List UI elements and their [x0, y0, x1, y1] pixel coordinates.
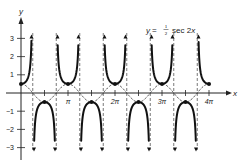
sec-graph: π2π3π4π321−1−2−3yxy=12sec 2x	[0, 0, 239, 163]
marked-point	[113, 82, 117, 86]
y-tick-label: 3	[10, 35, 14, 42]
marked-point	[160, 82, 164, 86]
y-tick-label: −1	[6, 108, 14, 115]
marked-point	[90, 100, 94, 104]
y-tick-label: −3	[6, 144, 14, 151]
secant-branch	[175, 102, 196, 141]
marked-point	[19, 82, 23, 86]
fraction-numerator: 1	[165, 24, 168, 29]
marked-point	[66, 82, 70, 86]
y-axis-arrow-icon	[19, 17, 24, 24]
secant-branch	[199, 42, 209, 84]
y-tick-label: 2	[10, 53, 14, 60]
secant-branch	[34, 102, 55, 141]
equation-rhs: sec 2x	[172, 26, 196, 35]
y-tick-label: −2	[6, 126, 14, 133]
axes	[6, 17, 232, 160]
marked-point	[43, 100, 47, 104]
x-axis-arrow-icon	[226, 91, 232, 96]
equation-label: y=	[145, 26, 157, 35]
marked-point	[137, 100, 141, 104]
x-axis-label: x	[232, 89, 238, 98]
marked-point	[207, 82, 211, 86]
y-axis-label: y	[18, 7, 24, 16]
secant-branch	[81, 102, 102, 141]
secant-branch	[105, 45, 126, 84]
x-tick-label: 3π	[158, 98, 167, 105]
secant-branch	[58, 45, 79, 84]
marked-point	[184, 100, 188, 104]
x-tick-label: π	[66, 98, 71, 105]
secant-branch	[21, 41, 31, 84]
x-tick-label: 4π	[205, 98, 214, 105]
y-tick-label: 1	[10, 71, 14, 78]
secant-branch	[152, 45, 173, 84]
secant-branch	[128, 102, 149, 141]
fraction-denominator: 2	[165, 31, 168, 36]
x-tick-label: 2π	[110, 98, 120, 105]
